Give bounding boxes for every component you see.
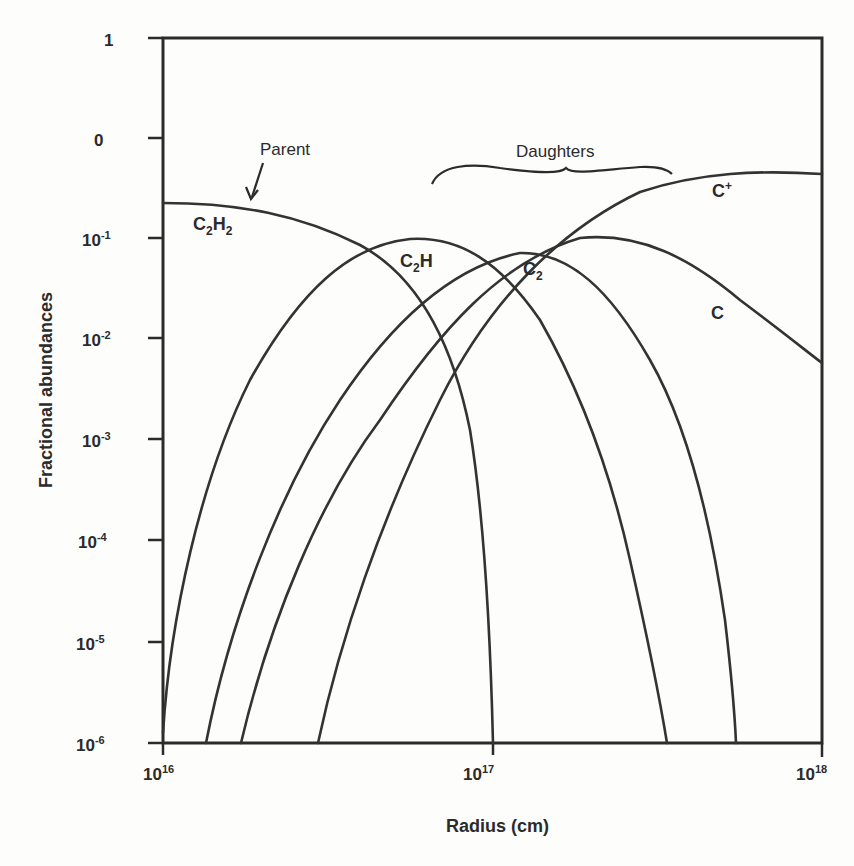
y-tick-label: 10-5 [76, 633, 105, 654]
y-tick-label: 1 [104, 31, 113, 50]
y-tick-label: 10-6 [76, 734, 105, 755]
curve-c2 [206, 253, 736, 743]
y-axis: 1 0 10-1 10-2 10-3 10-4 10-5 10-6 [76, 31, 163, 755]
y-tick-label: 10-1 [82, 229, 111, 250]
label-c: C [711, 303, 724, 323]
curve-c2h [163, 239, 667, 743]
y-axis-title: Fractional abundances [36, 292, 56, 488]
curves [163, 172, 822, 743]
parent-annotation: Parent [260, 140, 310, 159]
curve-c [241, 237, 822, 743]
brace-icon [432, 166, 672, 184]
x-tick-label: 1017 [463, 763, 494, 784]
y-tick-label: 10-3 [82, 430, 111, 451]
label-c2h: C2H [400, 251, 433, 275]
label-cplus: C+ [712, 179, 732, 201]
y-tick-label: 10-2 [82, 329, 111, 350]
x-axis-title: Radius (cm) [446, 816, 549, 836]
x-axis: 1016 1017 1018 [143, 743, 827, 784]
y-tick-label: 10-4 [78, 531, 108, 552]
daughters-annotation: Daughters [516, 142, 594, 161]
x-tick-label: 1016 [143, 763, 174, 784]
curve-cplus [318, 172, 822, 743]
arrowhead-icon [246, 187, 258, 199]
abundance-chart: 1 0 10-1 10-2 10-3 10-4 10-5 10-6 1016 1… [0, 0, 854, 866]
label-c2h2: C2H2 [193, 214, 233, 238]
x-tick-label: 1018 [796, 763, 827, 784]
y-tick-label: 0 [94, 131, 103, 150]
